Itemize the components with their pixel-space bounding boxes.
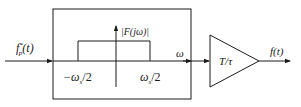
input-signal: f*p(t): [5, 41, 52, 61]
output-label: f(t): [270, 45, 284, 58]
gain-label: T/τ: [219, 55, 233, 67]
filter-box: [53, 9, 191, 99]
ideal-lowpass-filter-diagram: f*p(t) |F(jω)| −ωs/2 ωs/2 ω T/τ f(t): [0, 0, 301, 107]
omega-label: ω: [176, 47, 184, 59]
right-cutoff-label: ωs/2: [140, 70, 161, 86]
input-label: f*p(t): [16, 41, 34, 57]
left-cutoff-label: −ωs/2: [63, 70, 92, 86]
spectrum-label: |F(jω)|: [121, 26, 149, 38]
passband-rectangle: [78, 41, 150, 61]
gain-amplifier: [210, 35, 259, 87]
